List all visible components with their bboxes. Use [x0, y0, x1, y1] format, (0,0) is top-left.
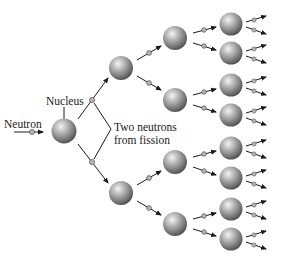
fission-bracket — [94, 103, 111, 159]
nucleus-sphere — [220, 13, 243, 36]
nucleus-sphere — [220, 104, 243, 127]
nucleus-sphere — [220, 74, 243, 97]
fission-label-line2: from fission — [114, 134, 170, 147]
nucleus-sphere — [163, 150, 187, 174]
nucleus-sphere — [220, 137, 243, 160]
nucleus-label: Nucleus — [46, 95, 84, 108]
nucleus-sphere — [163, 212, 187, 236]
nucleus-sphere — [220, 167, 243, 190]
nucleus-sphere — [220, 42, 243, 65]
nucleus-sphere — [109, 56, 133, 80]
nucleus-sphere — [220, 198, 243, 221]
fission-neutrons-gen1 — [78, 78, 108, 183]
nucleus-sphere — [109, 181, 133, 205]
nucleus-sphere — [52, 119, 77, 144]
fission-neutrons-gen3 — [193, 27, 216, 236]
fission-neutrons-gen4 — [246, 16, 266, 249]
fission-label-line1: Two neutrons — [114, 121, 177, 134]
neutron-label: Neutron — [4, 118, 42, 131]
nucleus-sphere — [220, 228, 243, 251]
nucleus-sphere — [163, 26, 187, 50]
nucleus-sphere — [163, 88, 187, 112]
